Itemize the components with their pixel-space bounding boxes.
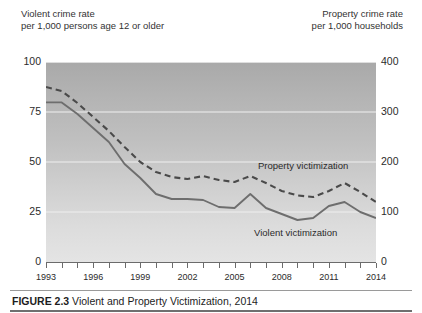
- x-axis-tick: [282, 263, 283, 268]
- right-axis-tick: 300: [381, 106, 421, 116]
- left-axis-tick: 50: [1, 156, 41, 166]
- caption-title: Violent and Property Victimization, 2014: [72, 295, 258, 307]
- caption-label: FIGURE 2.3: [12, 295, 69, 307]
- x-axis-tick: [345, 263, 346, 268]
- x-axis-tick-label: 1996: [73, 272, 113, 282]
- right-axis-tick: 0: [381, 256, 421, 266]
- x-axis-tick-label: 1993: [26, 272, 66, 282]
- gridlines: [46, 62, 376, 212]
- x-axis-tick: [172, 263, 173, 268]
- x-axis-tick: [156, 263, 157, 268]
- x-axis-tick: [250, 263, 251, 268]
- x-axis-tick: [235, 263, 236, 268]
- right-axis-tick: 400: [381, 56, 421, 66]
- x-axis-tick: [187, 263, 188, 268]
- x-axis-tick-label: 2002: [167, 272, 207, 282]
- x-axis-tick: [93, 263, 94, 268]
- caption-rule-bottom: [10, 310, 412, 312]
- x-axis-tick: [376, 263, 377, 268]
- x-axis-tick: [329, 263, 330, 268]
- x-axis-tick: [109, 263, 110, 268]
- x-axis-tick-label: 2005: [215, 272, 255, 282]
- x-axis-tick: [266, 263, 267, 268]
- series-label-violent: Violent victimization: [254, 227, 337, 238]
- x-axis-tick: [62, 263, 63, 268]
- right-axis-tick: 100: [381, 206, 421, 216]
- x-axis-tick: [125, 263, 126, 268]
- x-axis-tick: [46, 263, 47, 268]
- x-axis-tick: [219, 263, 220, 268]
- series-label-property: Property victimization: [258, 160, 348, 171]
- series-line-property: [46, 87, 376, 202]
- left-axis-tick: 25: [1, 206, 41, 216]
- left-axis-title: Violent crime rate per 1,000 persons age…: [21, 8, 164, 31]
- x-axis-tick-label: 1999: [120, 272, 160, 282]
- x-axis-tick-label: 2014: [356, 272, 396, 282]
- figure-container: Violent crime rate per 1,000 persons age…: [0, 0, 422, 313]
- left-axis-tick: 75: [1, 106, 41, 116]
- x-axis-tick: [360, 263, 361, 268]
- right-axis-title: Property crime rate per 1,000 households: [312, 8, 403, 31]
- x-axis-tick: [77, 263, 78, 268]
- x-axis-tick: [313, 263, 314, 268]
- x-axis-tick: [140, 263, 141, 268]
- right-axis-tick: 200: [381, 156, 421, 166]
- figure-caption: FIGURE 2.3 Violent and Property Victimiz…: [10, 290, 412, 312]
- left-axis-tick: 0: [1, 256, 41, 266]
- x-axis-tick: [203, 263, 204, 268]
- x-axis-tick-label: 2008: [262, 272, 302, 282]
- x-axis-tick-label: 2011: [309, 272, 349, 282]
- left-axis-tick: 100: [1, 56, 41, 66]
- x-axis-line: [46, 262, 376, 263]
- x-axis-tick: [297, 263, 298, 268]
- caption-text: FIGURE 2.3 Violent and Property Victimiz…: [10, 291, 412, 310]
